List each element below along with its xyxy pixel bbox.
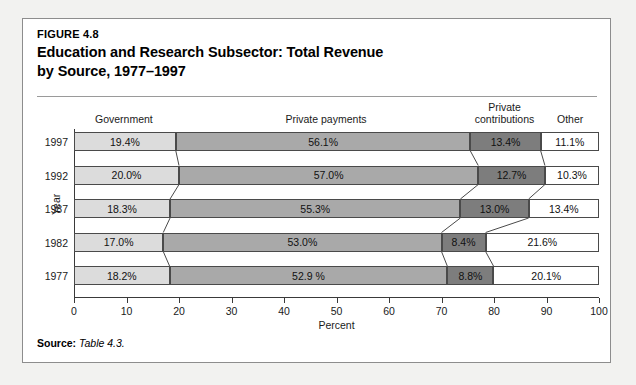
source-text: Table 4.3. [79,337,125,349]
bar-segment-private-contributions: 8.4% [442,233,486,252]
x-axis-tick [442,298,443,303]
x-axis-tick [389,298,390,303]
bar-segment-private-contributions: 13.4% [470,132,540,151]
bar-segment-other: 10.3% [545,166,599,185]
bar-segment-private-payments: 56.1% [176,132,471,151]
column-header-private-contributions: Private contributions [475,101,535,125]
x-axis-tick [599,298,600,303]
source-note: Source: Table 4.3. [37,337,125,349]
x-axis-tick-label: 10 [121,305,133,317]
column-header-private-payments: Private payments [285,113,366,125]
x-axis-tick-label: 70 [436,305,448,317]
x-axis-tick [74,298,75,303]
bar-segment-private-contributions: 8.8% [447,266,493,285]
x-axis-tick [284,298,285,303]
x-axis-tick-label: 50 [331,305,343,317]
bar-segment-government: 19.4% [74,132,176,151]
x-axis-tick-label: 60 [383,305,395,317]
chart-plot-area: 19.4%56.1%13.4%11.1%199720.0%57.0%12.7%1… [74,129,599,297]
bar-segment-other: 13.4% [529,199,599,218]
figure-container: FIGURE 4.8 Education and Research Subsec… [22,18,611,363]
column-header-private-contributions-line-2: contributions [475,113,535,125]
bar-segment-other: 20.1% [493,266,599,285]
figure-number: FIGURE 4.8 [37,27,597,41]
y-axis-tick-label: 1977 [28,270,68,282]
figure-title-block: FIGURE 4.8 Education and Research Subsec… [37,27,597,80]
figure-title-line-2: by Source, 1977–1997 [37,62,597,81]
y-axis-tick-label: 1997 [28,136,68,148]
bar-segment-government: 18.3% [74,199,170,218]
x-axis-tick-label: 20 [173,305,185,317]
column-header-other: Other [557,113,583,125]
bar-segment-other: 11.1% [541,132,599,151]
column-header-government: Government [95,113,153,125]
title-divider [37,96,597,97]
column-header-private-contributions-line-1: Private [475,101,535,113]
x-axis-title: Percent [74,319,599,331]
x-axis-tick-label: 40 [278,305,290,317]
bar-segment-private-contributions: 13.0% [460,199,528,218]
bar-segment-government: 18.2% [74,266,170,285]
x-axis-tick [337,298,338,303]
x-axis-tick-label: 80 [488,305,500,317]
x-axis-tick-label: 100 [590,305,608,317]
y-axis-tick-label: 1992 [28,170,68,182]
bar-segment-private-payments: 55.3% [170,199,460,218]
x-axis-tick [547,298,548,303]
x-axis-tick-label: 90 [541,305,553,317]
x-axis-tick [232,298,233,303]
y-axis-tick-label: 1987 [28,203,68,215]
bar-segment-government: 17.0% [74,233,163,252]
page-title: Education and Research Subsector: Total … [37,43,597,80]
figure-title-line-1: Education and Research Subsector: Total … [37,43,597,62]
bar-segment-private-payments: 57.0% [179,166,478,185]
source-label: Source: [37,337,76,349]
x-axis-tick [494,298,495,303]
bar-segment-other: 21.6% [486,233,599,252]
y-axis-tick-label: 1982 [28,237,68,249]
bar-segment-private-payments: 53.0% [163,233,441,252]
x-axis-tick [127,298,128,303]
x-axis-tick-label: 0 [71,305,77,317]
x-axis-tick [179,298,180,303]
bar-segment-private-contributions: 12.7% [478,166,545,185]
bar-segment-government: 20.0% [74,166,179,185]
x-axis-tick-label: 30 [226,305,238,317]
bar-segment-private-payments: 52.9 % [170,266,448,285]
